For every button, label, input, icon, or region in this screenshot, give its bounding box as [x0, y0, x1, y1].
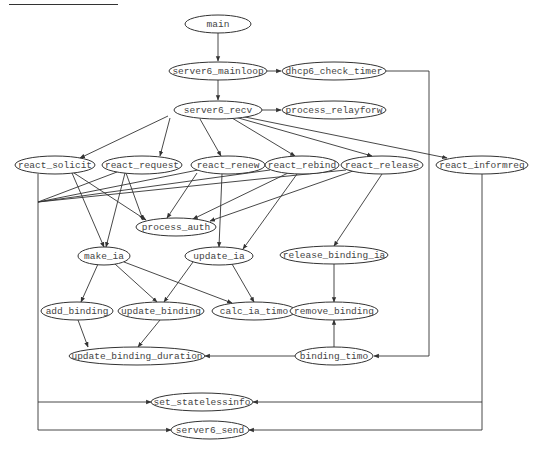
- node-label: set_statelessinfo: [154, 397, 251, 408]
- node-label: remove_binding: [294, 306, 374, 317]
- node-binding-timo[interactable]: binding_timo: [295, 347, 373, 365]
- node-calc-ia-timo[interactable]: calc_ia_timo: [212, 302, 296, 320]
- node-label: server6_mainloop: [172, 66, 264, 77]
- node-make-ia[interactable]: make_ia: [78, 247, 130, 265]
- node-label: dhcp6_check_timer: [286, 66, 383, 77]
- edge-server6_recv-to-react_renew: [200, 119, 221, 156]
- node-main[interactable]: main: [185, 15, 251, 33]
- node-label: main: [207, 19, 230, 30]
- node-react-rebind[interactable]: react_rebind: [265, 156, 339, 174]
- node-update-binding-duration[interactable]: update_binding_duration: [69, 347, 205, 365]
- node-release-binding-ia[interactable]: release_binding_ia: [280, 246, 388, 264]
- node-label: process_auth: [142, 222, 210, 233]
- edge-server6_recv-to-react_rebind: [232, 118, 295, 156]
- node-label: calc_ia_timo: [220, 306, 289, 317]
- node-dhcp6-check-timer[interactable]: dhcp6_check_timer: [282, 62, 386, 80]
- node-label: update_ia: [193, 251, 245, 262]
- node-set-statelessinfo[interactable]: set_statelessinfo: [151, 393, 253, 411]
- edge-react_solicit-to-make_ia: [72, 173, 104, 247]
- edge-server6_recv-to-react_informreq: [240, 116, 447, 158]
- node-label: server6_recv: [184, 105, 253, 116]
- edge-make_ia-to-update_binding: [115, 264, 157, 302]
- node-add-binding[interactable]: add_binding: [41, 302, 113, 320]
- edge-react_renew-to-update_ia: [219, 174, 222, 247]
- edge-react_release-to-junction: [38, 170, 346, 202]
- edge-make_ia-to-add_binding: [81, 264, 98, 302]
- node-react-solicit[interactable]: react_solicit: [15, 156, 95, 174]
- node-label: react_release: [345, 160, 419, 171]
- node-label: binding_timo: [300, 351, 369, 362]
- call-graph: mainserver6_mainloopdhcp6_check_timerser…: [0, 0, 542, 449]
- node-update-binding[interactable]: update_binding: [118, 302, 204, 320]
- node-server6-recv[interactable]: server6_recv: [174, 101, 262, 119]
- edge-update_binding-to-update_binding_duration: [138, 320, 160, 347]
- edge-react_renew-to-process_auth: [167, 173, 197, 218]
- edge-react_release-to-process_auth: [210, 171, 353, 221]
- node-react-request[interactable]: react_request: [102, 156, 182, 174]
- edge-react_informreq-to-server6_send: [249, 402, 482, 430]
- edge-server6_recv-to-react_request: [160, 118, 170, 156]
- node-remove-binding[interactable]: remove_binding: [290, 302, 378, 320]
- node-react-release[interactable]: react_release: [341, 156, 423, 174]
- edge-update_ia-to-update_binding: [164, 262, 193, 302]
- edge-react_request-to-make_ia: [106, 173, 125, 247]
- node-label: react_rebind: [268, 160, 336, 171]
- node-label: server6_send: [176, 425, 244, 436]
- node-process-auth[interactable]: process_auth: [136, 218, 216, 236]
- node-label: update_binding_duration: [71, 351, 202, 362]
- node-update-ia[interactable]: update_ia: [185, 247, 253, 265]
- edge-react_rebind-to-process_auth: [193, 173, 288, 219]
- node-label: react_renew: [197, 160, 260, 171]
- node-server6-mainloop[interactable]: server6_mainloop: [169, 62, 267, 80]
- node-label: process_relayforw: [286, 105, 383, 116]
- edges-layer: [38, 33, 482, 430]
- edge-add_binding-to-update_binding_duration: [78, 320, 88, 347]
- node-server6-send[interactable]: server6_send: [171, 421, 249, 439]
- node-label: add_binding: [46, 306, 109, 317]
- node-label: react_solicit: [18, 160, 92, 171]
- node-process-relayforw[interactable]: process_relayforw: [282, 101, 386, 119]
- edge-server6_recv-to-react_solicit: [80, 116, 168, 158]
- node-label: react_request: [105, 160, 179, 171]
- edge-junction-to-set_statelessinfo: [38, 202, 151, 402]
- edge-react_release-to-release_binding_ia: [334, 174, 382, 246]
- edge-react_rebind-to-update_ia: [243, 174, 297, 249]
- node-label: update_binding: [121, 306, 201, 317]
- edge-update_ia-to-calc_ia_timo: [232, 264, 254, 302]
- edge-react_informreq-to-set_statelessinfo: [253, 174, 482, 402]
- nodes-layer: mainserver6_mainloopdhcp6_check_timerser…: [15, 15, 528, 439]
- node-react-informreq[interactable]: react_informreq: [436, 156, 528, 174]
- edge-react_renew-to-junction: [38, 170, 198, 202]
- node-label: make_ia: [84, 251, 124, 262]
- node-label: react_informreq: [439, 160, 525, 171]
- edge-junction-to-server6_send: [38, 402, 171, 430]
- node-react-renew[interactable]: react_renew: [191, 156, 265, 174]
- edge-server6_recv-to-react_release: [235, 117, 372, 156]
- edge-react_solicit-to-process_auth: [74, 173, 146, 220]
- node-label: release_binding_ia: [283, 250, 386, 261]
